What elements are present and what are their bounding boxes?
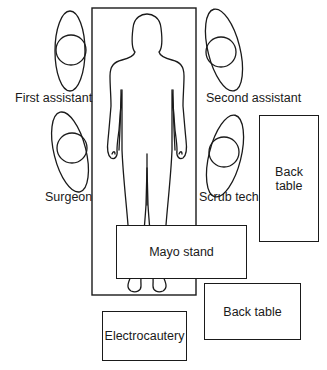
surgeon-position bbox=[45, 108, 96, 195]
second-assistant-label: Second assistant bbox=[206, 91, 301, 105]
electrocautery: Electrocautery bbox=[102, 311, 187, 361]
scrub-tech-position bbox=[199, 111, 250, 200]
electrocautery-label: Electrocautery bbox=[105, 329, 185, 343]
mayo-stand: Mayo stand bbox=[116, 225, 247, 279]
back-table-right: Back table bbox=[259, 115, 319, 242]
back-table-bottom-label: Back table bbox=[223, 305, 281, 319]
surgeon-label: Surgeon bbox=[45, 190, 92, 204]
or-layout-diagram: First assistant Second assistant Surgeon… bbox=[0, 0, 327, 370]
scrub-tech-label: Scrub tech. bbox=[199, 190, 262, 204]
back-table-right-label: Back table bbox=[260, 165, 318, 193]
first-assistant-position bbox=[55, 11, 86, 91]
second-assistant-position bbox=[198, 5, 249, 94]
mayo-stand-label: Mayo stand bbox=[149, 245, 214, 259]
first-assistant-label: First assistant bbox=[15, 91, 92, 105]
back-table-bottom: Back table bbox=[204, 283, 301, 340]
